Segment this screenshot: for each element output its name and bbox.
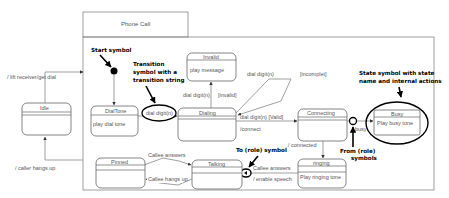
annotation-arrow (100, 55, 111, 67)
annotation-state-symbol-l2: name and internal actions (359, 78, 442, 84)
transition-label: Callee hangs up (148, 176, 188, 182)
transition-label: dial digit(n) (183, 92, 210, 98)
transition-label: / caller hangs up (15, 165, 55, 171)
transition-label: Callee answers (253, 165, 291, 171)
state-name: DialTone (105, 108, 126, 114)
state-action: play dial tone (93, 121, 125, 127)
from-role-symbol (350, 118, 357, 125)
state-name: ringing (313, 160, 330, 166)
state-name: Idle (40, 105, 49, 111)
state-action: Play busy tone (377, 120, 413, 126)
state-talking[interactable]: Talking (192, 160, 242, 189)
annotation-transition-l1: Transition (133, 61, 164, 67)
state-dialtone[interactable]: DialTone play dial tone (91, 106, 138, 136)
transition-label: dial digit(n) (247, 71, 274, 77)
annotation-transition-l3: transition string (133, 77, 184, 84)
transition-label: [invalid] (218, 92, 237, 98)
transition-label: /connect (240, 126, 261, 132)
transition-label: / lift receiver/get dial (7, 74, 56, 80)
state-name: Pinned (111, 159, 128, 165)
annotation-arrow (399, 87, 401, 97)
initial-state-dot (111, 68, 118, 75)
state-action: play message (190, 67, 224, 73)
state-name: Connecting (307, 110, 335, 116)
transition-label: [incomplet] (300, 71, 327, 77)
state-invalid[interactable]: Invalid play message (187, 53, 236, 81)
state-name: Invalid (203, 54, 219, 60)
transition-label: dial digit(n) (146, 110, 173, 116)
transition-dialing-selfloop (236, 79, 291, 115)
frame-title: Phone Call (121, 21, 150, 27)
annotation-to-role: To (role) symbol (236, 147, 287, 154)
state-connecting[interactable]: Connecting (298, 109, 347, 141)
state-action: Play ringing tone (300, 174, 341, 180)
transition-label: Callee answers (148, 152, 186, 158)
state-name: Busy (391, 111, 403, 117)
state-diagram: Phone Call Idle / lift receiver/get dial… (0, 0, 449, 198)
state-name: Dialing (199, 110, 216, 116)
transition-label: / enable speech (253, 176, 292, 182)
annotation-transition-l2: symbol with a (133, 69, 177, 76)
annotation-arrow (146, 86, 155, 103)
transition-caller-hangs-up (45, 137, 83, 160)
state-busy[interactable]: Busy Play busy tone (374, 110, 420, 135)
annotation-from-role-l2: symbols (351, 155, 378, 162)
state-dialing[interactable]: Dialing (178, 108, 236, 141)
state-idle[interactable]: Idle (22, 103, 71, 135)
annotation-from-role-l1: From (role) (340, 148, 376, 154)
annotation-state-symbol-l1: State symbol with state (359, 70, 435, 77)
annotation-start-symbol: Start symbol (91, 47, 132, 54)
transition-label: dial digit(n) [Valid] (240, 114, 284, 120)
transition-label: busy (355, 126, 367, 132)
transition-label: / connected (288, 142, 316, 148)
state-name: Talking (208, 161, 225, 167)
state-ringing[interactable]: ringing Play ringing tone (298, 159, 346, 188)
state-pinned[interactable]: Pinned (96, 158, 145, 188)
transition-pinned-talking (144, 158, 191, 165)
